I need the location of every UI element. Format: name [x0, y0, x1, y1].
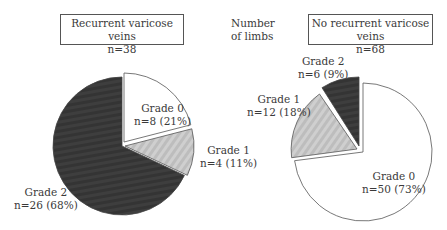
- right-label-grade2: Grade 2 n=6 (9%): [298, 55, 348, 81]
- left-title-box: Recurrent varicose veins n=38: [60, 14, 184, 45]
- left-title: Recurrent varicose veins: [61, 17, 183, 43]
- right-label-grade0: Grade 0 n=50 (73%): [362, 170, 426, 196]
- right-label-grade1: Grade 1 n=12 (18%): [247, 93, 311, 119]
- left-n: n=38: [61, 43, 183, 56]
- left-label-grade0: Grade 0 n=8 (21%): [134, 102, 191, 128]
- left-label-grade1: Grade 1 n=4 (11%): [200, 144, 257, 170]
- left-label-grade2: Grade 2 n=26 (68%): [14, 186, 78, 212]
- right-title: No recurrent varicose veins: [309, 17, 432, 43]
- number-of-limbs-label: Number of limbs: [231, 17, 275, 43]
- right-title-box: No recurrent varicose veins n=68: [308, 14, 433, 45]
